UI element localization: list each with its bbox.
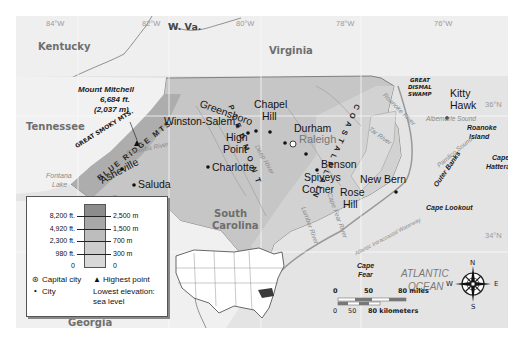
capital-symbol <box>290 141 296 147</box>
state-label-georgia: Georgia <box>68 318 112 328</box>
state-label-tennessee: Tennessee <box>26 122 85 132</box>
city-spiveys: Spiveys <box>304 172 341 183</box>
legend-m-0: 0 <box>113 262 117 269</box>
legend-m-1500: 1,500 m <box>113 225 138 232</box>
legend-city: City <box>42 287 56 296</box>
cape-lookout: Cape Lookout <box>426 204 473 211</box>
lon-78: 78°W <box>336 20 354 28</box>
city-rose-hill: Hill <box>343 199 358 210</box>
lon-80: 80°W <box>236 20 254 28</box>
city-durham: Durham <box>294 123 331 134</box>
city-legend-icon: • <box>34 286 37 295</box>
scale-km-80: 80 kilometers <box>368 308 418 315</box>
legend-m-300: 300 m <box>113 250 132 257</box>
nc-map: Kentucky W. Va. Virginia Tennessee South… <box>16 16 508 328</box>
elevation-legend: 8,200 ft. 4,920 ft. 2,300 ft. 980 ft. 0 … <box>26 196 168 317</box>
fontana-lake-2: Lake <box>52 181 67 188</box>
cape-fear-2: Fear <box>358 271 373 278</box>
state-label-virginia: Virginia <box>269 46 313 56</box>
elevation-bar <box>84 204 106 268</box>
compass-n: N <box>470 260 475 267</box>
city-kitty: Kitty <box>450 88 470 99</box>
scale-miles-80: 80 miles <box>398 288 429 295</box>
city-new-bern: New Bern <box>360 174 406 185</box>
compass-e: E <box>494 281 498 288</box>
fontana-lake-1: Fontana <box>46 172 72 179</box>
city-high: High <box>226 132 248 143</box>
legend-lowest-1: Lowest elevation: <box>93 287 155 296</box>
legend-ft-0: 0 <box>71 262 75 269</box>
city-kitty-hawk: Hawk <box>450 100 476 111</box>
cape-fear-1: Cape <box>357 262 374 269</box>
state-label-west-virginia: W. Va. <box>168 22 201 32</box>
cape-hatteras-2: Hatteras <box>486 163 508 170</box>
legend-ft-4920: 4,920 ft. <box>50 225 75 232</box>
mount-mitchell-ft: 6,684 ft. <box>100 96 130 104</box>
lat-36: 36°N <box>485 101 502 109</box>
city-raleigh-capital: Raleigh <box>299 134 336 145</box>
scale-km-0: 0 <box>333 308 337 315</box>
albemarle-sound: Albemarle Sound <box>426 116 476 123</box>
legend-capital: Capital city <box>42 275 81 284</box>
great-dismal-2: DISMAL <box>408 85 432 91</box>
capital-legend-icon: ⊛ <box>32 275 39 284</box>
legend-lowest-2: sea level <box>93 297 125 306</box>
compass-w: W <box>446 281 453 288</box>
city-benson: Benson <box>321 159 357 170</box>
scale-km-50: 50 <box>348 308 356 315</box>
state-label-kentucky: Kentucky <box>38 42 90 52</box>
scale-miles-50: 50 <box>364 288 373 295</box>
roanoke-island-1: Roanoke <box>467 124 497 131</box>
great-dismal-1: GREAT <box>410 78 430 84</box>
city-charlotte: Charlotte <box>212 162 255 173</box>
city-rose: Rose <box>340 187 365 198</box>
city-point: Point <box>223 144 247 155</box>
highest-point-legend-icon: ▲ <box>93 275 101 284</box>
cape-hatteras-1: Cape <box>492 154 508 161</box>
state-label-south-carolina-1: South <box>214 209 247 219</box>
legend-ft-8200: 8,200 ft. <box>50 212 75 219</box>
city-saluda: Saluda <box>138 179 171 190</box>
compass-s: S <box>471 304 475 311</box>
great-dismal-3: SWAMP <box>408 92 432 98</box>
legend-ft-2300: 2,300 ft. <box>50 237 75 244</box>
legend-m-2500: 2,500 m <box>113 212 138 219</box>
legend-ft-980: 980 ft. <box>56 250 75 257</box>
ocean-label-1: ATLANTIC <box>401 268 449 281</box>
legend-highest: Highest point <box>103 275 150 284</box>
state-label-south-carolina-2: Carolina <box>212 221 259 231</box>
legend-m-700: 700 m <box>113 237 132 244</box>
lon-84: 84°W <box>46 20 64 28</box>
scale-miles-0: 0 <box>333 288 338 295</box>
city-chapel: Chapel <box>254 99 287 110</box>
city-chapel-hill: Hill <box>262 111 277 122</box>
lon-76: 76°W <box>434 20 452 28</box>
lon-82: 82°W <box>142 20 160 28</box>
mount-mitchell-label: Mount Mitchell <box>78 86 134 94</box>
lat-34: 34°N <box>485 232 502 240</box>
